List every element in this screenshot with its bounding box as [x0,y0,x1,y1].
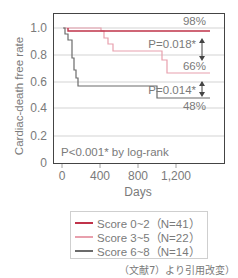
double-arrow-icon [199,38,205,61]
label-logrank: P<0.001* by log-rank [61,146,169,158]
legend-item: Score 3~5（N=22） [75,230,200,244]
legend-item: Score 0~2（N=41） [75,216,200,230]
y-tick: 0.4 [30,101,47,115]
x-tick: 1,200 [161,169,191,183]
label-p-0014: P=0.014* [148,84,196,96]
y-tick: 0.6 [30,75,47,89]
y-tick: 0.8 [30,48,47,62]
double-arrow-icon [199,81,205,97]
label-48: 48% [183,100,206,112]
y-tick: 1.0 [30,21,47,35]
y-axis-label: Cardiac-death free rate [13,37,25,155]
legend: Score 0~2（N=41） Score 3~5（N=22） Score 6~… [70,211,208,259]
x-tick: 0 [59,169,66,183]
label-p-0018: P=0.018* [148,38,196,50]
legend-swatch [75,250,93,252]
y-tick: 0.2 [30,129,47,143]
x-axis-ticks [62,164,176,168]
x-axis-label: Days [124,185,151,199]
x-tick: 400 [90,169,110,183]
legend-label: Score 6~8（N=14） [97,243,200,259]
gridlines [54,28,225,136]
source-citation: （文献7）より引用改変） [119,262,235,277]
x-tick: 800 [128,169,148,183]
legend-swatch [75,222,93,224]
legend-item: Score 6~8（N=14） [75,244,200,258]
y-axis-ticks: 1.0 0.8 0.6 0.4 0.2 0 [30,21,47,170]
label-98: 98% [183,15,206,27]
legend-swatch [75,236,93,238]
label-66: 66% [183,60,206,72]
plot-frame [54,14,225,164]
y-tick: 0 [40,156,47,170]
